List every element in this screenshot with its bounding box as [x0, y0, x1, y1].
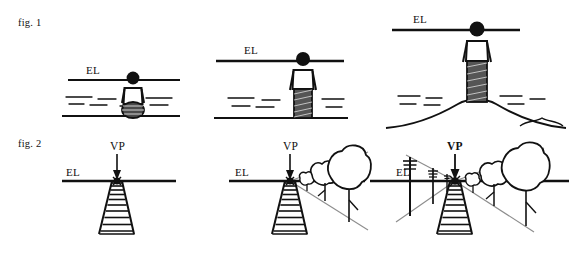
ladder-rail-right-fig2-panel3 — [460, 181, 472, 234]
vp-label-fig2-panel1: VP — [110, 140, 125, 152]
el-label-fig1-panel1: EL — [86, 64, 100, 76]
el-label-fig1-panel2: EL — [244, 44, 258, 56]
fig1-panel-hill: EL — [386, 13, 566, 128]
ladder-rail-right-fig2-panel2 — [295, 181, 307, 234]
el-label-fig2-panel2: EL — [235, 166, 249, 178]
vp-label-fig2-panel3: VP — [447, 140, 463, 152]
water-hatching-fig1-panel2 — [228, 98, 344, 107]
water-hatching-fig1-panel1 — [66, 97, 172, 106]
vp-arrow-icon-fig2-panel2 — [286, 154, 294, 180]
tree-near-fig2-panel3 — [502, 142, 550, 226]
person-head-icon — [296, 52, 310, 66]
el-label-fig2-panel1: EL — [66, 166, 80, 178]
person-seated-fig1-panel1 — [122, 72, 144, 118]
fig2-panel-ladder-trees: EL VP — [229, 140, 371, 234]
person-legs — [467, 61, 487, 102]
person-head-icon — [470, 22, 485, 37]
fig1-panel-standing: EL — [214, 44, 348, 118]
vp-arrow-icon-fig2-panel1 — [113, 154, 121, 180]
fig2-panel-ladder: EL VP — [62, 140, 176, 234]
ladder-rail-right-fig2-panel1 — [122, 181, 134, 234]
vp-label-fig2-panel2: VP — [283, 140, 298, 152]
person-head-icon — [127, 72, 140, 85]
el-label-fig2-panel3: EL — [396, 166, 410, 178]
tree-far-fig2-panel3 — [465, 173, 480, 193]
ladder-rail-left-fig2-panel2 — [272, 181, 285, 234]
vanishing-point-marker-fig2-panel1 — [113, 177, 121, 185]
fig2-panel-full: EL VP — [370, 140, 569, 234]
person-torso — [293, 70, 314, 89]
ladder-rail-left-fig2-panel1 — [99, 181, 112, 234]
vp-arrow-icon-fig2-panel3 — [451, 154, 460, 180]
fig1-panel-seated: EL — [62, 64, 180, 118]
perspective-diagram: fig. 1 EL — [0, 0, 569, 258]
person-standing-fig1-panel3 — [463, 22, 491, 103]
diagram-canvas: fig. 1 EL — [0, 0, 569, 258]
fig1-caption: fig. 1 — [18, 17, 41, 28]
vanishing-point-marker-fig2-panel2 — [286, 177, 294, 185]
vanishing-point-marker-fig2-panel3 — [450, 176, 460, 186]
person-torso — [466, 41, 488, 61]
el-label-fig1-panel3: EL — [413, 13, 427, 25]
tree-near-fig2-panel2 — [328, 145, 371, 222]
fig2-caption: fig. 2 — [18, 138, 41, 149]
